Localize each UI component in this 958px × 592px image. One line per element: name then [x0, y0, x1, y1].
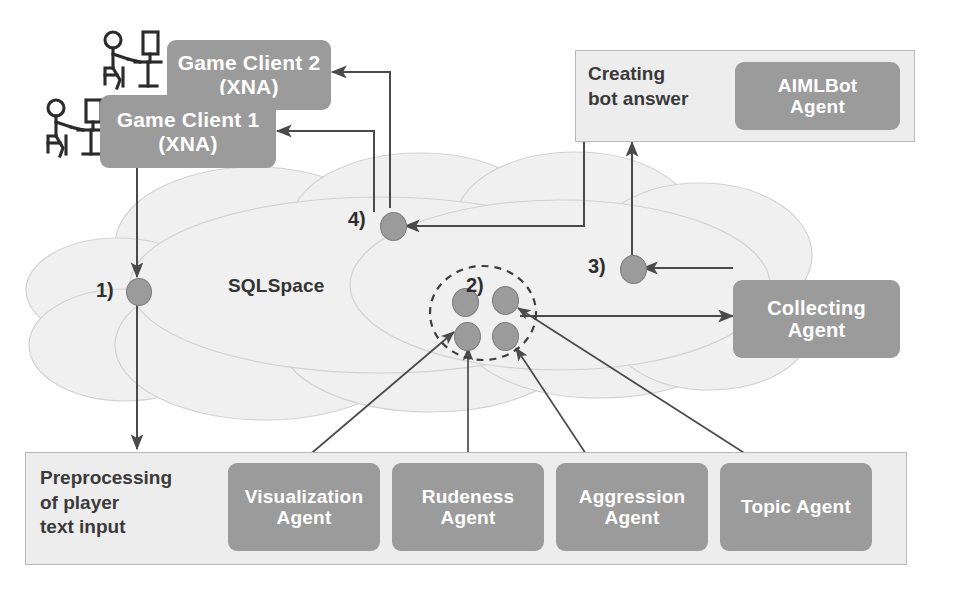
- visualization-agent-box[interactable]: Visualization Agent: [228, 463, 380, 551]
- topic-agent-box[interactable]: Topic Agent: [720, 463, 872, 551]
- step-3-label: 3): [588, 255, 606, 278]
- collecting-agent-line1: Collecting: [767, 297, 866, 319]
- preprocessing-line2: of player: [40, 491, 215, 516]
- visualization-agent-line2: Agent: [277, 507, 332, 528]
- user-at-computer-icon: [38, 96, 108, 162]
- game-client-1-label-line2: (XNA): [158, 132, 217, 156]
- rudeness-agent-box[interactable]: Rudeness Agent: [392, 463, 544, 551]
- aimlbot-agent-line2: Agent: [790, 96, 845, 117]
- step-4-label: 4): [348, 208, 366, 231]
- aimlbot-agent-box[interactable]: AIMLBot Agent: [735, 62, 900, 130]
- tuple-node-step1[interactable]: [126, 278, 152, 306]
- diagram-canvas: SQLSpace: [0, 0, 958, 592]
- aggression-agent-line2: Agent: [605, 507, 660, 528]
- game-client-1-box[interactable]: Game Client 1 (XNA): [100, 95, 276, 168]
- game-client-1-label-line1: Game Client 1: [117, 108, 260, 132]
- preprocessing-label: Preprocessing of player text input: [40, 466, 215, 540]
- game-client-2-label-line1: Game Client 2: [178, 51, 321, 75]
- step-1-label: 1): [96, 279, 114, 302]
- visualization-agent-line1: Visualization: [245, 486, 363, 507]
- collecting-agent-box[interactable]: Collecting Agent: [733, 280, 900, 358]
- rudeness-agent-line2: Agent: [441, 507, 496, 528]
- sqlspace-label: SQLSpace: [228, 275, 325, 297]
- tuple-node-cluster-d[interactable]: [492, 322, 519, 351]
- user-at-computer-icon: [95, 28, 165, 94]
- preprocessing-line1: Preprocessing: [40, 466, 215, 491]
- creating-bot-answer-label: Creating bot answer: [588, 62, 733, 111]
- rudeness-agent-line1: Rudeness: [422, 486, 514, 507]
- tuple-node-cluster-b[interactable]: [492, 286, 519, 315]
- aimlbot-agent-line1: AIMLBot: [778, 75, 858, 96]
- preprocessing-line3: text input: [40, 515, 215, 540]
- aggression-agent-box[interactable]: Aggression Agent: [556, 463, 708, 551]
- tuple-node-cluster-c[interactable]: [454, 322, 481, 351]
- step-2-label: 2): [466, 274, 484, 297]
- collecting-agent-line2: Agent: [788, 319, 846, 341]
- creating-bot-answer-line2: bot answer: [588, 87, 733, 112]
- topic-agent-line1: Topic Agent: [741, 496, 851, 517]
- aggression-agent-line1: Aggression: [579, 486, 686, 507]
- tuple-node-step3[interactable]: [620, 255, 647, 284]
- creating-bot-answer-line1: Creating: [588, 62, 733, 87]
- tuple-node-step4[interactable]: [380, 212, 407, 241]
